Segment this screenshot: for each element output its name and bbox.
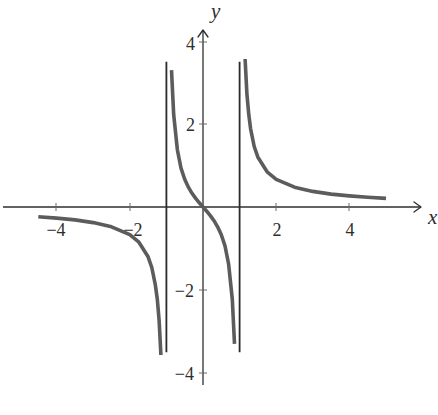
x-tick-label: −4 xyxy=(46,220,65,240)
x-tick-label: 4 xyxy=(346,220,355,240)
x-tick-label: 2 xyxy=(273,220,282,240)
y-tick-label: −2 xyxy=(175,281,194,301)
right-branch xyxy=(245,59,386,198)
function-plot: −4 −2 2 4 4 2 −2 −4 y x xyxy=(0,0,438,415)
y-tick-label: −4 xyxy=(175,364,194,384)
x-tick-label: −2 xyxy=(123,220,142,240)
y-tick-label: 4 xyxy=(186,34,195,54)
y-axis-label: y xyxy=(209,0,221,23)
x-axis-label: x xyxy=(427,205,438,229)
y-tick-label: 2 xyxy=(186,115,195,135)
